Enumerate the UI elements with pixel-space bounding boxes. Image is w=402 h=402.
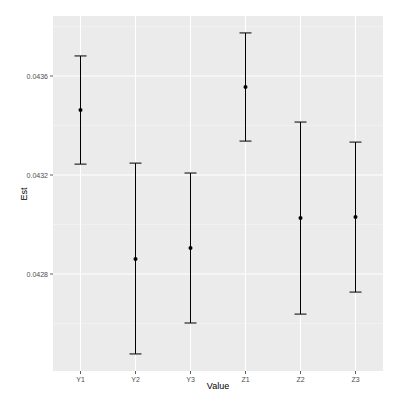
x-tick-label: Y3	[186, 376, 195, 383]
data-point-z2	[299, 216, 303, 220]
data-point-y1	[79, 108, 83, 112]
x-axis-title: Value	[207, 381, 229, 391]
x-tick-label: Y1	[76, 376, 85, 383]
y-axis-title: Est	[19, 187, 29, 201]
y-axis: 0.04280.04320.0436	[27, 73, 53, 278]
data-point-y3	[189, 246, 193, 250]
x-tick-label: Z2	[296, 376, 304, 383]
y-tick-label: 0.0432	[27, 172, 49, 179]
data-point-z1	[244, 85, 248, 89]
x-tick-label: Z1	[241, 376, 249, 383]
data-point-y2	[134, 257, 138, 261]
x-tick-label: Z3	[351, 376, 359, 383]
y-tick-label: 0.0428	[27, 271, 49, 278]
data-point-z3	[354, 215, 358, 219]
x-tick-label: Y2	[131, 376, 140, 383]
plot-panel	[53, 16, 383, 371]
y-tick-label: 0.0436	[27, 73, 49, 80]
error-bar-chart: 0.04280.04320.0436 Y1Y2Y3Z1Z2Z3 Value Es…	[0, 0, 402, 402]
